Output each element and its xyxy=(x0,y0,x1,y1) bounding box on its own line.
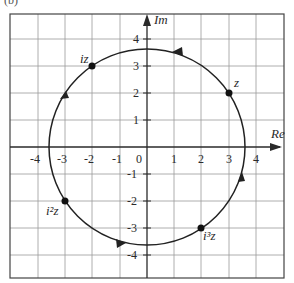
svg-text:-4: -4 xyxy=(127,248,137,262)
svg-text:1: 1 xyxy=(133,113,139,127)
argand-diagram: (b) Im Re 0 -4 -3 -2 -1 1 2 3 xyxy=(0,0,294,283)
svg-text:2: 2 xyxy=(198,152,204,166)
direction-arrow-icon xyxy=(238,172,245,182)
svg-text:-1: -1 xyxy=(112,152,122,166)
point-iz: iz xyxy=(80,51,96,70)
direction-arrow-icon xyxy=(116,239,126,248)
imaginary-axis-arrow-icon xyxy=(143,14,151,26)
direction-arrow-icon xyxy=(60,91,69,99)
svg-text:3: 3 xyxy=(133,59,139,73)
figure-part-label: (b) xyxy=(4,0,18,7)
svg-text:z: z xyxy=(233,75,239,90)
real-axis-arrow-icon xyxy=(270,143,282,151)
x-tick-labels: -4 -3 -2 -1 1 2 3 4 xyxy=(30,152,259,166)
svg-text:2: 2 xyxy=(133,86,139,100)
svg-text:-3: -3 xyxy=(127,221,137,235)
origin-label: 0 xyxy=(136,152,142,166)
svg-text:-4: -4 xyxy=(30,152,40,166)
axes xyxy=(10,18,280,278)
real-axis-label: Re xyxy=(270,126,285,141)
svg-text:iz: iz xyxy=(80,51,89,66)
svg-text:-1: -1 xyxy=(127,167,137,181)
svg-text:4: 4 xyxy=(133,32,139,46)
point-i3z: i³z xyxy=(198,225,216,244)
svg-text:i³z: i³z xyxy=(203,228,216,243)
svg-text:-3: -3 xyxy=(57,152,67,166)
svg-text:-2: -2 xyxy=(84,152,94,166)
svg-text:-2: -2 xyxy=(127,194,137,208)
svg-text:4: 4 xyxy=(253,152,259,166)
svg-text:i²z: i²z xyxy=(46,203,59,218)
svg-text:3: 3 xyxy=(226,152,232,166)
svg-text:1: 1 xyxy=(171,152,177,166)
imaginary-axis-label: Im xyxy=(153,12,168,27)
